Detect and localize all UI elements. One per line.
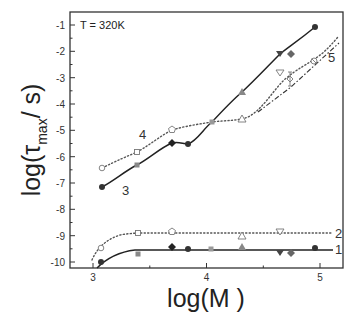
y-tick-label: -5 [56,125,65,136]
y-axis [70,25,75,262]
temperature-annotation: T = 320K [80,19,125,31]
curve-label-2: 2 [335,226,342,241]
plot-frame [70,12,343,268]
curve-label-4: 4 [139,127,146,142]
y-tick-label: -2 [56,46,65,57]
curve-2-markers [98,228,284,251]
y-tick-label: -9 [56,231,65,242]
x-axis [93,263,320,268]
x-axis-title: log(M ) [167,284,245,312]
curve-4-line [102,37,338,168]
curve-label-5: 5 [328,50,335,65]
curve-1-markers [98,243,318,265]
y-tick-label: -3 [56,73,65,84]
chart: -1 -2 -3 -4 -5 -6 -7 -8 -9 -10 3 4 5 log… [0,0,354,317]
curve-3-markers [99,24,318,190]
y-tick-labels: -1 -2 -3 -4 -5 -6 -7 -8 -9 -10 [51,20,66,268]
y-tick-label: -4 [56,99,65,110]
curve-5-line [258,43,339,112]
x-tick-labels: 3 4 5 [90,272,323,283]
svg-text:log(τmax/ s): log(τmax/ s) [17,84,50,197]
y-tick-label: -6 [56,152,65,163]
y-axis-title-tail: / s) [17,84,45,119]
y-tick-label: -7 [56,178,65,189]
y-tick-label: -10 [51,257,66,268]
y-axis-title-sub: max [34,118,50,144]
y-axis-title-main: log(τ [17,145,45,197]
x-tick-label: 4 [204,272,210,283]
x-tick-label: 5 [317,272,323,283]
curve-label-3: 3 [122,183,129,198]
y-axis-title: log(τmax/ s) [17,84,50,197]
y-tick-label: -1 [56,20,65,31]
curve-1-line [97,250,333,268]
y-tick-label: -8 [56,204,65,215]
curve-label-1: 1 [335,242,342,257]
x-tick-label: 3 [90,272,96,283]
